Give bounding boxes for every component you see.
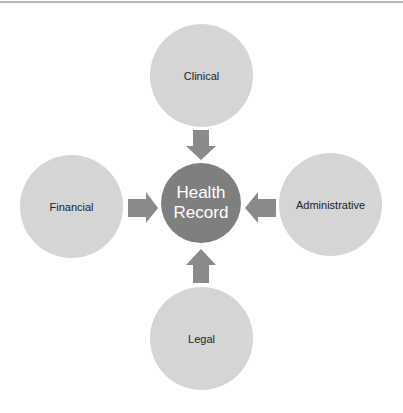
node-clinical: Clinical [150,24,253,127]
node-label: Clinical [184,70,219,82]
center-label-line2: Record [174,203,229,223]
node-legal: Legal [150,287,253,390]
node-administrative: Administrative [279,153,382,256]
arrow-right-icon [128,192,158,223]
center-label-line1: Health [174,183,229,203]
node-label: Financial [49,201,93,213]
arrow-left-icon [245,192,276,223]
arrow-down-icon [186,130,216,160]
node-label: Administrative [296,199,365,211]
node-financial: Financial [20,155,123,258]
node-label: Legal [188,333,215,345]
arrow-up-icon [186,249,216,283]
node-health-record: Health Record [161,163,241,243]
